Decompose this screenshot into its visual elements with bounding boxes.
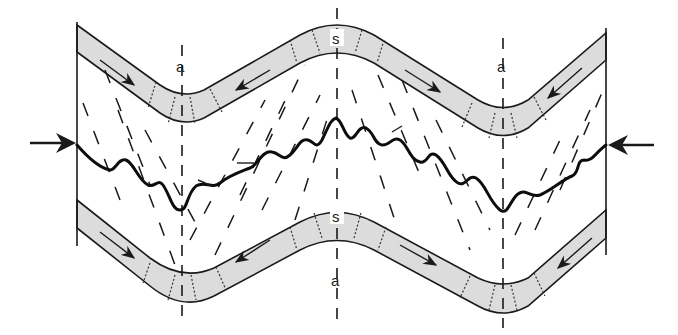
axial-label-bottom: a	[331, 272, 340, 289]
fold-diagram: a a a s s	[0, 0, 678, 335]
axial-label-right: a	[497, 58, 506, 75]
hinge-label-bottom: s	[332, 208, 340, 225]
stylolite-seam	[77, 118, 606, 211]
axial-label-left: a	[176, 58, 185, 75]
hinge-label-top: s	[332, 30, 340, 47]
stylolite-tooth	[392, 126, 402, 132]
layer-hatch-marks	[143, 30, 546, 310]
compression-arrow-right-icon	[608, 135, 654, 155]
compression-arrow-left-icon	[30, 133, 76, 153]
